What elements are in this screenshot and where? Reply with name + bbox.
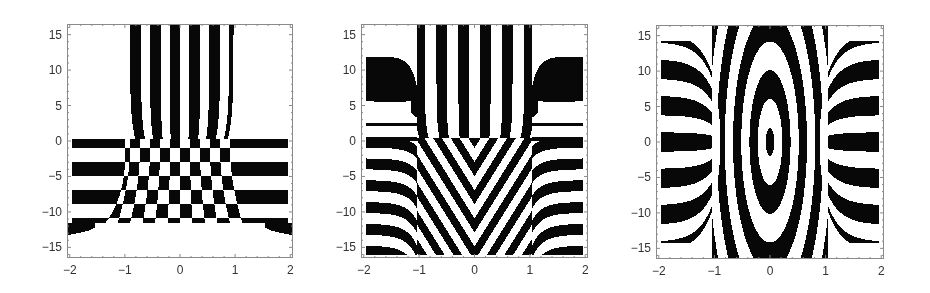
y-tick-label: 10 — [326, 64, 356, 76]
x-tick-label: −2 — [644, 265, 674, 277]
x-tick-label: 2 — [570, 264, 600, 276]
plot-panel-2: 151050−5−10−15−2−1012 — [310, 0, 620, 293]
y-tick-label: 5 — [326, 100, 356, 112]
x-tick-label: −1 — [699, 265, 729, 277]
plot-area — [656, 25, 884, 259]
y-tick-label: 15 — [326, 29, 356, 41]
y-tick-label: 0 — [326, 135, 356, 147]
y-tick-label: −15 — [326, 241, 356, 253]
x-tick-label: 1 — [811, 265, 841, 277]
x-tick-label: 1 — [515, 264, 545, 276]
fringe-pattern-image — [362, 25, 587, 257]
x-tick-label: −2 — [55, 264, 85, 276]
x-tick-label: 2 — [275, 264, 305, 276]
y-tick-label: −10 — [32, 206, 62, 218]
fringe-pattern-image — [657, 26, 883, 258]
x-tick-label: 2 — [866, 265, 896, 277]
plot-area — [361, 24, 588, 258]
y-tick-label: 10 — [621, 65, 651, 77]
y-tick-label: 15 — [621, 30, 651, 42]
fringe-pattern-image — [68, 25, 292, 257]
y-tick-label: −15 — [32, 241, 62, 253]
y-tick-label: 0 — [32, 135, 62, 147]
y-tick-label: −10 — [621, 207, 651, 219]
x-tick-label: −1 — [404, 264, 434, 276]
x-tick-label: 0 — [755, 265, 785, 277]
x-tick-label: −2 — [349, 264, 379, 276]
y-tick-label: −5 — [621, 171, 651, 183]
y-tick-label: −5 — [326, 170, 356, 182]
plot-area — [67, 24, 293, 258]
x-tick-label: −1 — [110, 264, 140, 276]
x-tick-label: 1 — [220, 264, 250, 276]
x-tick-label: 0 — [460, 264, 490, 276]
plot-panel-1: 151050−5−10−15−2−1012 — [0, 0, 310, 293]
y-tick-label: −10 — [326, 206, 356, 218]
x-tick-label: 0 — [165, 264, 195, 276]
y-tick-label: 15 — [32, 29, 62, 41]
y-tick-label: −5 — [32, 170, 62, 182]
y-tick-label: 0 — [621, 136, 651, 148]
y-tick-label: 5 — [621, 101, 651, 113]
plot-panel-3: 151050−5−10−15−2−1012 — [620, 0, 930, 293]
y-tick-label: 5 — [32, 100, 62, 112]
y-tick-label: −15 — [621, 242, 651, 254]
y-tick-label: 10 — [32, 64, 62, 76]
